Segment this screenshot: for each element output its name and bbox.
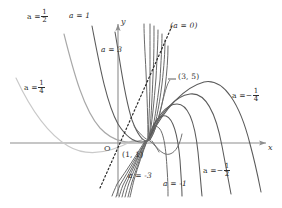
curve-label-a-neg-one-quarter: a =−14 (232, 88, 260, 104)
frac-numerator: 1 (41, 9, 48, 16)
frac-denominator: 4 (253, 96, 260, 103)
minus-sign: − (217, 167, 223, 175)
curve-label-a-neg-one-text: a = -1 (163, 179, 187, 188)
origin-label: O (104, 145, 111, 153)
frac-denominator: 4 (38, 88, 45, 95)
x-axis-label-text: x (268, 143, 273, 152)
curve-label-a-zero: (a = 0) (170, 22, 198, 30)
curve-branch-steep-6 (148, 24, 150, 140)
frac-numerator: 1 (224, 163, 231, 170)
curve-label-a-one: a = 1 (69, 12, 90, 20)
curve-label-a-one-text: a = 1 (69, 11, 90, 20)
point-label-3-5-text: (3, 5) (178, 72, 199, 81)
point-label-1-1: (1, 1) (122, 151, 143, 159)
point-label-1-1-text: (1, 1) (122, 150, 143, 159)
curve-a-one (92, 26, 147, 142)
frac-denominator: 2 (41, 17, 48, 24)
math-figure: a =12 a = 1 a = 3 (a = 0) a =14 a =−14 a… (0, 0, 282, 208)
frac-numerator: 1 (253, 88, 260, 95)
frac-denominator: 2 (224, 171, 231, 178)
curve-label-a-one-quarter: a =14 (24, 80, 45, 96)
x-axis-label: x (268, 144, 273, 152)
curve-label-a-one-half: a =12 (27, 9, 48, 25)
curve-small-u-right (152, 134, 182, 154)
frac-numerator: 1 (38, 80, 45, 87)
curve-label-a-three: a = 3 (101, 46, 122, 54)
curve-label-a-three-text: a = 3 (101, 45, 122, 54)
y-axis-label: y (121, 18, 126, 26)
minus-sign: − (246, 92, 252, 100)
curve-label-a-neg-three-text: a = -3 (128, 171, 152, 180)
origin-label-text: O (104, 144, 111, 153)
curve-label-a-neg-three: a = -3 (128, 172, 152, 180)
point-label-3-5: (3, 5) (178, 73, 199, 81)
curve-label-a-neg-one-half: a =−12 (203, 163, 231, 179)
y-axis-label-text: y (121, 17, 126, 26)
curve-label-a-zero-text: (a = 0) (170, 21, 198, 30)
curve-label-a-neg-one: a = -1 (163, 180, 187, 188)
